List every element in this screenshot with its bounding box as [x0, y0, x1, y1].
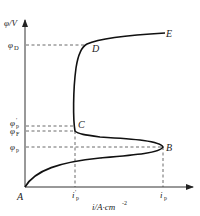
y-tick-phi-d: φ D: [8, 40, 19, 51]
svg-text:p: p: [164, 195, 167, 201]
point-a-label: A: [16, 191, 24, 202]
point-b-label: B: [166, 142, 172, 153]
x-tick-i-p-prime: i ′ p: [72, 189, 79, 201]
polarization-curve: [25, 33, 165, 187]
svg-text:φ: φ: [10, 142, 15, 152]
svg-text:-2: -2: [122, 200, 127, 206]
polarization-diagram: A B C D E φ/V φ D φ ′ p φ F φ p i ′ p i …: [0, 0, 200, 216]
y-tick-phi-p: φ p: [10, 142, 19, 153]
y-axis-label: φ/V: [4, 18, 18, 28]
point-c-label: C: [78, 119, 85, 130]
point-d-label: D: [91, 43, 100, 54]
svg-text:F: F: [16, 131, 20, 137]
svg-text:p: p: [76, 195, 79, 201]
svg-text:φ: φ: [8, 40, 13, 50]
svg-text:φ: φ: [10, 126, 15, 136]
x-tick-i-p: i p: [160, 190, 167, 201]
svg-text:p: p: [16, 123, 19, 129]
svg-text:i: i: [160, 190, 163, 200]
point-e-label: E: [165, 28, 172, 39]
svg-text:i/A·cm: i/A·cm: [92, 202, 116, 212]
x-axis-label: i/A·cm -2: [92, 200, 127, 212]
svg-text:D: D: [14, 44, 19, 51]
svg-text:p: p: [16, 147, 19, 153]
